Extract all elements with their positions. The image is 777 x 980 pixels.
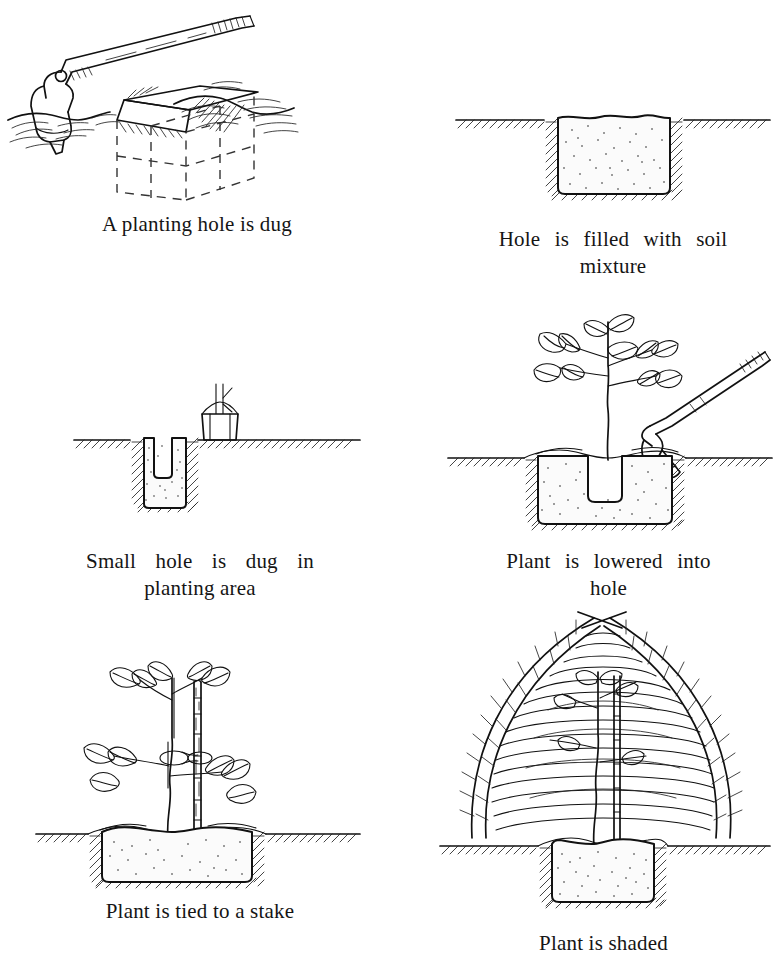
panel-small-hole-dug: Small hole is dug in planting area [20,378,380,603]
caption-line: planting area [20,575,380,602]
caption-small-hole-dug: Small hole is dug in planting area [20,548,380,603]
panel-plant-tied-stake: Plant is tied to a stake [22,638,378,925]
caption-plant-tied-stake: Plant is tied to a stake [22,898,378,925]
ground-line [448,448,772,466]
diagram-page: A planting hole is dug [0,0,777,980]
illustration-filled-hole-cross-section [452,104,774,216]
caption-line: Hole is filled with soil [452,226,774,253]
caption-line: Plant is tied to a stake [22,898,378,925]
panel-plant-lowered: Plant is lowered into hole [440,300,777,603]
pit-opening [117,86,258,138]
soil-mixture-fill-with-notch [144,438,186,508]
soil-mixture-fill [558,115,670,194]
sapling-icon [550,671,646,846]
seedling-container-icon [202,384,238,440]
soil-mixture-fill [102,827,252,882]
caption-hole-filled-soil: Hole is filled with soil mixture [452,226,774,281]
illustration-plant-tied-to-stake [22,638,378,888]
caption-line: mixture [452,253,774,280]
woven-frond-dome-icon [460,612,742,838]
panel-planting-hole-dug: A planting hole is dug [6,2,388,238]
caption-line: A planting hole is dug [6,211,388,238]
caption-line: Plant is lowered into [440,548,777,575]
illustration-plant-lowered-into-hole [440,300,777,540]
illustration-plant-shaded-by-dome [430,598,777,918]
caption-line: Small hole is dug in [20,548,380,575]
caption-planting-hole-dug: A planting hole is dug [6,211,388,238]
panel-hole-filled-soil: Hole is filled with soil mixture [452,104,774,281]
illustration-hoe-digging-hole [6,2,388,207]
panel-plant-shaded: Plant is shaded [430,598,777,957]
caption-plant-shaded: Plant is shaded [430,930,777,957]
soil-mixture-fill [538,456,672,524]
pit-dashed-outline [117,92,254,200]
caption-line: Plant is shaded [430,930,777,957]
illustration-small-hole-in-planting-area [20,378,380,538]
caption-plant-lowered: Plant is lowered into hole [440,548,777,603]
sapling-icon [114,678,222,838]
soil-mixture-fill [552,839,654,902]
ground-line [74,440,360,448]
